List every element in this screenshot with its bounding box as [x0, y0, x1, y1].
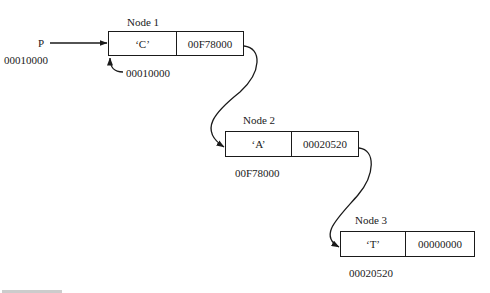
- self-address-arrow: [110, 58, 123, 72]
- node3-address: 00020520: [349, 267, 393, 279]
- node3-title: Node 3: [355, 214, 387, 226]
- node2-data-cell: ‘A’: [226, 132, 292, 156]
- node-3: ‘T’ 00000000: [340, 231, 475, 257]
- figure-caption-clipped: [0, 288, 490, 293]
- node-2: ‘A’ 00020520: [225, 131, 359, 157]
- node3-data-cell: ‘T’: [341, 232, 406, 256]
- node1-data-cell: ‘C’: [109, 32, 177, 55]
- node-1: ‘C’ 00F78000: [108, 31, 244, 56]
- node1-address: 00010000: [126, 67, 170, 79]
- pointer-address: 00010000: [4, 54, 48, 66]
- node2-next-cell: 00020520: [292, 132, 358, 156]
- pointer-label: P: [38, 37, 44, 49]
- node1-next-cell: 00F78000: [177, 32, 243, 55]
- node3-next-cell: 00000000: [406, 232, 474, 256]
- node2-address: 00F78000: [235, 167, 280, 179]
- node1-title: Node 1: [127, 16, 159, 28]
- node2-title: Node 2: [243, 114, 275, 126]
